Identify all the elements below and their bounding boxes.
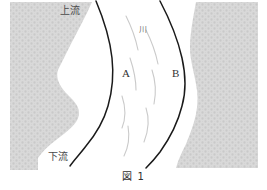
figure-container: 上流 下流 川 A B 図 1 。 [0,0,267,190]
label-upstream: 上流 [60,6,80,16]
label-downstream: 下流 [48,152,68,162]
figure-caption: 図 1 [0,168,267,183]
label-river: 川 [139,26,147,34]
page-edge-fragment: 。 [0,92,5,98]
river-diagram [0,0,267,190]
label-region-a: A [122,68,130,79]
label-region-b: B [172,68,179,79]
